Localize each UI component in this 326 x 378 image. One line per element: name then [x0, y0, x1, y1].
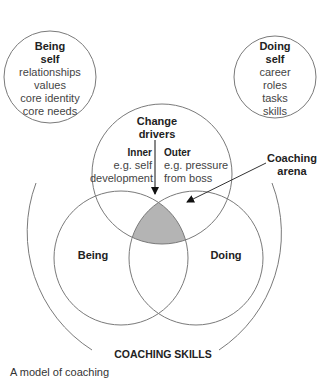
coaching-skills-arc-left: [27, 183, 92, 350]
coaching-arena-line-1: Coaching: [262, 152, 322, 165]
being-self-title-1: Being: [4, 40, 96, 53]
inner-driver-label: Inner e.g. self development: [90, 146, 152, 185]
being-self-title-2: self: [4, 53, 96, 66]
coaching-arena-line-2: arena: [262, 165, 322, 178]
change-drivers-title: Change drivers: [122, 115, 192, 141]
doing-self-item: skills: [235, 105, 315, 118]
outer-driver-label: Outer e.g. pressure from boss: [164, 146, 244, 185]
change-drivers-title-1: Change: [122, 115, 192, 128]
doing-self-item: career: [235, 66, 315, 79]
outer-title: Outer: [164, 146, 244, 159]
inner-line-2: development: [90, 172, 152, 185]
doing-self-item: roles: [235, 79, 315, 92]
being-self-item: values: [4, 79, 96, 92]
doing-self-label: Doing self career roles tasks skills: [235, 40, 315, 118]
change-drivers-title-2: drivers: [122, 128, 192, 141]
doing-label: Doing: [201, 249, 251, 262]
inner-line-1: e.g. self: [90, 159, 152, 172]
coaching-skills-label: COACHING SKILLS: [100, 348, 226, 361]
doing-self-title-1: Doing: [235, 40, 315, 53]
doing-self-title-2: self: [235, 53, 315, 66]
outer-line-2: from boss: [164, 172, 244, 185]
coaching-arena-label: Coaching arena: [262, 152, 322, 178]
being-self-item: core identity: [4, 92, 96, 105]
outer-line-1: e.g. pressure: [164, 159, 244, 172]
inner-title: Inner: [90, 146, 152, 159]
being-self-item: relationships: [4, 66, 96, 79]
figure-caption: A model of coaching: [10, 366, 109, 378]
being-self-label: Being self relationships values core ide…: [4, 40, 96, 118]
doing-self-item: tasks: [235, 92, 315, 105]
coaching-skills-arc-right: [219, 183, 281, 350]
being-label: Being: [68, 249, 118, 262]
being-self-item: core needs: [4, 105, 96, 118]
